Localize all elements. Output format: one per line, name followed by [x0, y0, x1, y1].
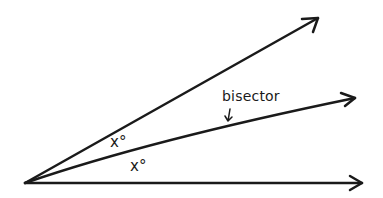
bisector-pointer-arrow [225, 109, 232, 121]
upper-angle-label: x° [110, 133, 126, 151]
bisector-label: bisector [222, 88, 280, 104]
bisector-ray [25, 98, 355, 183]
angle-diagram [0, 0, 383, 198]
lower-angle-label: x° [130, 157, 146, 175]
